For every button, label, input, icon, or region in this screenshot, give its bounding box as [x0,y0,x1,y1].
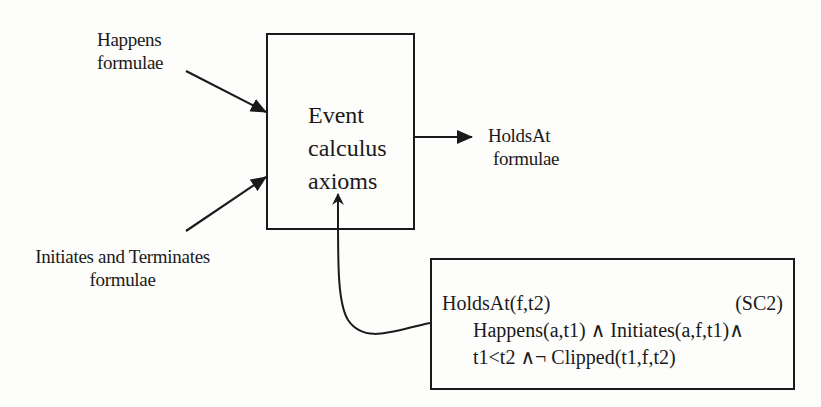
diagram-canvas: Happens formulae Initiates and Terminate… [0,0,821,407]
input-initiates-line1: Initiates and Terminates [20,245,225,268]
arrow-initiates-to-axioms [186,177,266,231]
axiom-tag: (SC2) [735,290,783,317]
axiom-body-line2: t1<t2 ∧¬ Clipped(t1,f,t2) [473,344,676,371]
output-line1: HoldsAt [488,124,559,147]
input-initiates-terminates-formulae: Initiates and Terminates formulae [20,245,225,291]
output-line2: formulae [488,147,559,170]
process-line1: Event [308,99,387,132]
sc2-axiom-box: HoldsAt(f,t2) (SC2) Happens(a,t1) ∧ Init… [430,258,795,390]
event-calculus-axioms-box: Event calculus axioms [266,33,415,230]
input-happens-line2: formulae [97,51,163,74]
process-line3: axioms [308,165,387,198]
process-label: Event calculus axioms [308,99,387,198]
axiom-body-line1: Happens(a,t1) ∧ Initiates(a,f,t1)∧ [473,317,744,344]
input-happens-line1: Happens [97,28,163,51]
input-initiates-line2: formulae [20,268,225,291]
arrow-happens-to-axioms [186,71,266,112]
input-happens-formulae: Happens formulae [97,28,163,74]
axiom-head: HoldsAt(f,t2) [442,290,550,317]
output-holdsat-formulae: HoldsAt formulae [488,124,559,170]
process-line2: calculus [308,132,387,165]
